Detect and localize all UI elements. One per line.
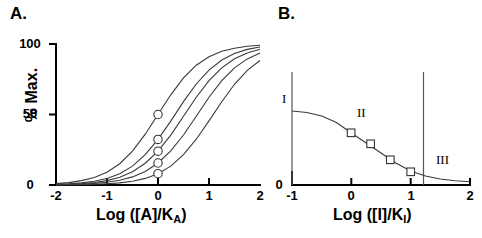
panel-b-x-axis-label-suffix: ) — [406, 206, 411, 223]
panel-b-xtick-label-0: 0 — [339, 188, 363, 203]
panel-a-ytick-label-100: 100 — [14, 36, 46, 51]
panel-b-marker-1 — [347, 129, 355, 137]
panel-b-axes — [292, 172, 470, 185]
panel-a-ytick-label-0: 0 — [14, 177, 46, 192]
panel-a-xtick-label-neg2: -2 — [44, 188, 68, 203]
panel-b-x-axis-label: Log ([I]/KI) — [333, 206, 412, 224]
panel-b-region-label-III: III — [436, 152, 449, 168]
panel-a-xtick-label-0: 0 — [146, 188, 170, 203]
panel-b-marker-3 — [387, 156, 395, 164]
panel-b-x-axis-label-subscript: I — [403, 213, 406, 225]
panel-b-region-label-I: I — [282, 91, 286, 107]
panel-a-x-axis-label-subscript: A — [173, 213, 181, 225]
panel-b-xtick-label-1: 1 — [399, 188, 423, 203]
panel-a-marker-curve-3 — [154, 147, 162, 155]
panel-a: A. — [0, 0, 270, 238]
panel-a-xtick-label-neg1: -1 — [95, 188, 119, 203]
panel-a-x-axis-label-prefix: Log ([A]/K — [96, 206, 173, 223]
panel-a-marker-curve-4 — [154, 159, 162, 167]
panel-b-x-axis-label-prefix: Log ([I]/K — [333, 206, 403, 223]
panel-b-xtick-label-neg1: -1 — [280, 188, 304, 203]
panel-b-inhibition-curve — [292, 111, 470, 182]
panel-a-marker-curve-5 — [154, 170, 162, 178]
panel-a-y-axis-label: % Max. — [23, 55, 41, 135]
panel-b-marker-2 — [367, 140, 375, 148]
panel-a-x-axis-label: Log ([A]/KA) — [96, 206, 187, 224]
panel-a-marker-curve-2 — [154, 135, 162, 143]
panel-b: B. — [240, 0, 482, 238]
panel-b-marker-4 — [407, 168, 415, 176]
panel-a-marker-curve-1 — [154, 110, 162, 118]
figure-root: A. — [0, 0, 482, 238]
panel-b-xtick-label-2: 2 — [458, 188, 482, 203]
panel-b-region-label-II: II — [357, 105, 366, 121]
panel-a-x-axis-label-suffix: ) — [181, 206, 186, 223]
panel-b-region-dividers — [292, 72, 424, 185]
panel-a-markers — [154, 110, 162, 178]
panel-a-xtick-label-1: 1 — [197, 188, 221, 203]
